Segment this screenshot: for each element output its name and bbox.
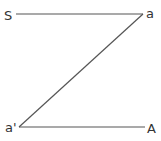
label-a: a	[146, 6, 154, 21]
segment-a-to-a-prime	[19, 14, 143, 127]
z-diagram: S a a' A	[0, 0, 161, 141]
label-a-prime: a'	[5, 120, 17, 135]
label-A: A	[147, 121, 156, 136]
label-s: S	[4, 8, 12, 23]
